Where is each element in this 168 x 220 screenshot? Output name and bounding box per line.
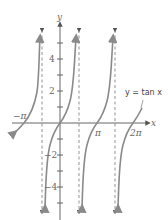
- x-axis-label: x: [151, 118, 156, 128]
- y-tick-label-neg2: −2: [44, 150, 57, 160]
- y-tick-label-2: 2: [49, 86, 55, 96]
- y-tick-label-4: 4: [49, 54, 55, 64]
- x-tick-label-2pi: 2π: [129, 128, 143, 138]
- y-tick-label-neg4: −4: [44, 182, 58, 192]
- tan-graph: y x 4 2 −2 −4 −π π 2π y = tan x: [0, 0, 168, 220]
- equation-label: y = tan x: [125, 88, 162, 97]
- equation-pointer: [141, 100, 143, 108]
- x-tick-label-neg-pi: −π: [13, 111, 28, 121]
- y-axis-label: y: [56, 12, 63, 22]
- axes: [12, 24, 148, 220]
- x-tick-label-pi: π: [94, 128, 102, 138]
